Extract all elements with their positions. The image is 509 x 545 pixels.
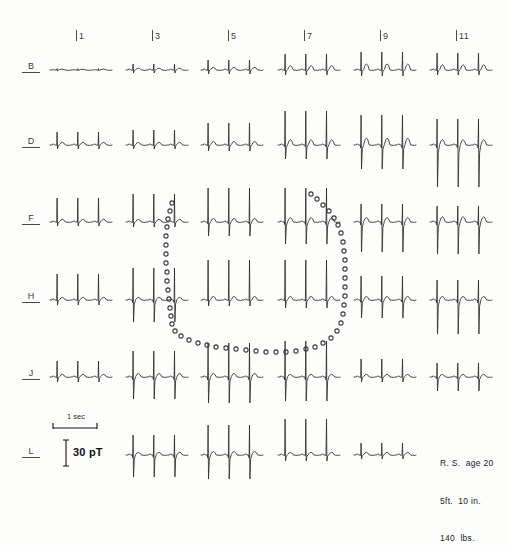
trace-cell-J9 bbox=[354, 359, 416, 382]
row-header-label: B bbox=[22, 62, 40, 73]
trace-cell-L9 bbox=[354, 443, 416, 459]
trace-cell-L7 bbox=[278, 419, 340, 461]
column-header-label: 7 bbox=[307, 31, 313, 41]
scale-bars bbox=[53, 423, 97, 466]
row-header-label: D bbox=[22, 137, 40, 148]
trace-cell-H5 bbox=[201, 260, 263, 306]
column-tick-icon bbox=[380, 30, 381, 41]
trace-cell-H11 bbox=[430, 280, 492, 334]
column-header-label: 9 bbox=[383, 31, 389, 41]
row-header-J: J bbox=[22, 369, 40, 380]
row-header-label: F bbox=[22, 214, 40, 225]
column-header-5: 5 bbox=[228, 30, 237, 41]
row-header-F: F bbox=[22, 214, 40, 225]
row-header-label: H bbox=[22, 292, 40, 303]
column-tick-icon bbox=[456, 30, 457, 41]
trace-cell-J11 bbox=[430, 363, 492, 391]
column-header-11: 11 bbox=[456, 30, 469, 41]
row-header-label: L bbox=[22, 447, 40, 458]
trace-cell-B5 bbox=[201, 60, 263, 74]
subject-line-2: 5ft. 10 in. bbox=[440, 495, 494, 508]
amplitude-scale-label: 30 pT bbox=[73, 446, 103, 458]
trace-cell-B1 bbox=[50, 69, 112, 71]
column-header-1: 1 bbox=[76, 30, 85, 41]
trace-cell-F3 bbox=[126, 194, 188, 227]
trace-cell-J3 bbox=[126, 351, 188, 399]
column-header-3: 3 bbox=[152, 30, 161, 41]
column-header-label: 11 bbox=[459, 31, 469, 41]
subject-line-1: R. S. age 20 bbox=[440, 457, 494, 470]
column-header-label: 1 bbox=[79, 31, 85, 41]
trace-cell-F9 bbox=[354, 204, 416, 252]
column-header-9: 9 bbox=[380, 30, 389, 41]
trace-cell-B11 bbox=[430, 53, 492, 75]
subject-info: R. S. age 20 5ft. 10 in. 140 lbs. bbox=[440, 432, 494, 545]
trace-cell-H3 bbox=[126, 268, 188, 322]
zero-field-contour bbox=[164, 192, 347, 354]
trace-cell-H7 bbox=[278, 260, 340, 308]
row-header-label: J bbox=[22, 369, 40, 380]
column-header-label: 3 bbox=[155, 31, 161, 41]
trace-cell-D5 bbox=[201, 123, 263, 151]
row-header-L: L bbox=[22, 447, 40, 458]
column-tick-icon bbox=[228, 30, 229, 41]
column-tick-icon bbox=[304, 30, 305, 41]
trace-cell-D9 bbox=[354, 115, 416, 169]
trace-cell-D3 bbox=[126, 130, 188, 149]
column-header-7: 7 bbox=[304, 30, 313, 41]
column-tick-icon bbox=[152, 30, 153, 41]
trace-cell-H1 bbox=[50, 274, 112, 305]
trace-cell-F5 bbox=[201, 188, 263, 236]
trace-cell-L5 bbox=[201, 425, 263, 479]
subject-line-3: 140 lbs. bbox=[440, 532, 494, 545]
trace-cell-B9 bbox=[354, 52, 416, 76]
trace-cell-B3 bbox=[126, 64, 188, 73]
trace-cell-F7 bbox=[278, 188, 340, 244]
row-header-B: B bbox=[22, 62, 40, 73]
trace-cell-D7 bbox=[278, 111, 340, 159]
trace-cell-D1 bbox=[50, 132, 112, 149]
trace-cell-D11 bbox=[430, 119, 492, 187]
trace-cell-B7 bbox=[278, 54, 340, 75]
trace-cell-F1 bbox=[50, 198, 112, 226]
row-header-H: H bbox=[22, 292, 40, 303]
trace-cell-J1 bbox=[50, 361, 112, 382]
column-header-label: 5 bbox=[231, 31, 237, 41]
time-scale-label: 1 sec bbox=[53, 412, 99, 421]
column-tick-icon bbox=[76, 30, 77, 41]
trace-cell-H9 bbox=[354, 276, 416, 318]
row-header-D: D bbox=[22, 137, 40, 148]
trace-cell-F11 bbox=[430, 206, 492, 254]
trace-cell-L3 bbox=[126, 435, 188, 477]
